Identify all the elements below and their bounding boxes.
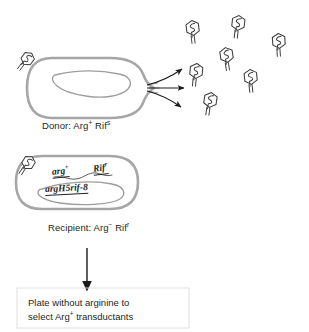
donor-cell <box>27 58 154 118</box>
bacteriophage-icon <box>272 33 286 57</box>
donor-label: Donor: Arg+ Rifs <box>42 120 110 132</box>
bacteriophage-icon <box>186 20 201 44</box>
recipient-label: Recipient: Arg− Rifr <box>48 222 129 234</box>
bacteriophage-icon <box>244 69 259 93</box>
plate-caption: Plate without arginine to select Arg+ tr… <box>28 296 178 324</box>
transduction-diagram <box>0 0 309 332</box>
donor-rif-superscript: s <box>107 119 110 126</box>
arg-superscript: + <box>64 163 68 170</box>
gene-label-rif: Rifr <box>92 162 108 174</box>
released-phage-group <box>186 15 286 116</box>
gene-label-arg: arg+ <box>52 165 70 177</box>
recipient-rif-superscript: r <box>127 221 129 228</box>
bacteriophage-icon <box>189 63 203 87</box>
gene-label-argh5rif8: argH5rif-8 <box>45 182 88 194</box>
burst-arrow-down <box>147 91 181 107</box>
burst-arrow-up <box>147 69 182 85</box>
bacteriophage-icon <box>202 92 217 117</box>
burst-arrows <box>147 69 184 107</box>
bacteriophage-icon <box>219 47 235 72</box>
bacteriophage-icon <box>231 15 246 39</box>
process-arrow <box>82 248 92 292</box>
rif-superscript: r <box>104 160 107 167</box>
